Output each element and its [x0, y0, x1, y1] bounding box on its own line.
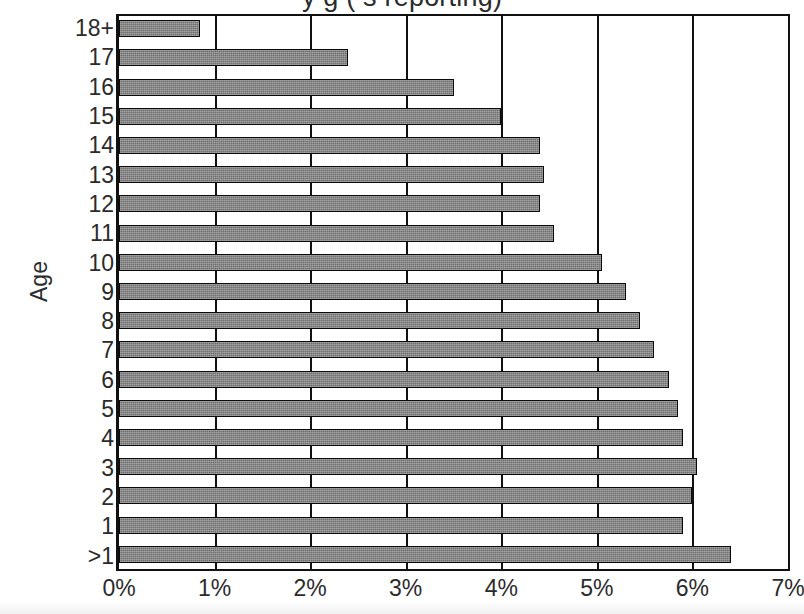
- bar-row: [119, 160, 788, 189]
- bar: [119, 371, 669, 388]
- bar-row: [119, 510, 788, 539]
- bar: [119, 487, 692, 504]
- bar: [119, 225, 554, 242]
- y-axis-tick-label: 10: [88, 249, 114, 278]
- y-axis-tick-label: 17: [88, 43, 114, 72]
- chart-title: y g ( s reporting): [0, 0, 804, 14]
- y-axis-tick-label: 8: [101, 307, 114, 336]
- y-axis-tick-label: 5: [101, 395, 114, 424]
- bar: [119, 137, 540, 154]
- bar-row: [119, 452, 788, 481]
- bar: [119, 341, 654, 358]
- y-axis-tick-label: 3: [101, 454, 114, 483]
- y-axis-tick-label: 9: [101, 278, 114, 307]
- y-axis-tick-label: 14: [88, 131, 114, 160]
- y-axis-tick-label: 1: [101, 512, 114, 541]
- x-axis-tick-label: 4%: [485, 575, 518, 602]
- bar: [119, 79, 454, 96]
- x-axis-tick-label: 7%: [771, 575, 804, 602]
- y-axis-tick-label: 15: [88, 102, 114, 131]
- bar-series: [119, 14, 788, 569]
- chart-screenshot: y g ( s reporting) Age 18+17161514131211…: [0, 0, 804, 614]
- bar-row: [119, 189, 788, 218]
- x-axis-tick-labels: 0%1%2%3%4%5%6%7%: [116, 575, 790, 611]
- y-axis-tick-label: 6: [101, 366, 114, 395]
- bar: [119, 166, 544, 183]
- bar-row: [119, 14, 788, 43]
- y-axis-tick-label: 12: [88, 190, 114, 219]
- bar-row: [119, 218, 788, 247]
- bar-row: [119, 306, 788, 335]
- bar: [119, 458, 697, 475]
- bar: [119, 108, 501, 125]
- x-axis-tick-label: 6%: [676, 575, 709, 602]
- y-axis-tick-label: 11: [90, 219, 114, 248]
- bar: [119, 195, 540, 212]
- y-axis-tick-label: 16: [88, 73, 114, 102]
- bar: [119, 517, 683, 534]
- bar-row: [119, 540, 788, 569]
- bar-row: [119, 131, 788, 160]
- bar: [119, 20, 200, 37]
- y-axis-tick-label: 2: [101, 483, 114, 512]
- bar: [119, 312, 640, 329]
- x-axis-tick-label: 5%: [580, 575, 613, 602]
- y-axis-tick-label: 4: [101, 424, 114, 453]
- bar-row: [119, 423, 788, 452]
- y-axis-tick-label: >1: [88, 542, 114, 571]
- bar: [119, 49, 348, 66]
- bar-row: [119, 364, 788, 393]
- y-axis-tick-label: 13: [88, 161, 114, 190]
- x-axis-tick-label: 3%: [389, 575, 422, 602]
- bar: [119, 546, 731, 563]
- bar-row: [119, 72, 788, 101]
- y-axis-tick-label: 18+: [75, 14, 114, 43]
- bar-row: [119, 335, 788, 364]
- bar-row: [119, 394, 788, 423]
- x-axis-tick-label: 0%: [102, 575, 135, 602]
- bar-row: [119, 43, 788, 72]
- bar: [119, 254, 602, 271]
- y-axis-tick-labels: 18+1716151413121110987654321>1: [40, 14, 114, 571]
- bar: [119, 429, 683, 446]
- bar-row: [119, 481, 788, 510]
- bar: [119, 283, 626, 300]
- bar-row: [119, 102, 788, 131]
- bar-row: [119, 248, 788, 277]
- bar: [119, 400, 678, 417]
- y-axis-tick-label: 7: [101, 336, 114, 365]
- bar-row: [119, 277, 788, 306]
- x-axis-tick-label: 2%: [294, 575, 327, 602]
- x-axis-tick-label: 1%: [198, 575, 231, 602]
- plot-area: [116, 14, 790, 571]
